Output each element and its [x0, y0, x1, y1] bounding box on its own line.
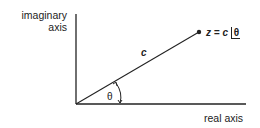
point-z-label-prefix: z = c: [206, 27, 231, 38]
theta-label: θ: [107, 91, 113, 103]
point-z-label: z = c θ: [206, 27, 240, 39]
imaginary-axis-label: imaginary axis: [21, 9, 67, 33]
vector-c-label: c: [141, 47, 147, 59]
angle-symbol: θ: [231, 27, 240, 39]
real-axis-label: real axis: [204, 112, 243, 124]
imaginary-axis-label-line2: axis: [21, 21, 67, 33]
point-z-dot: [197, 30, 201, 34]
imaginary-axis-label-line1: imaginary: [21, 9, 67, 21]
vector-c-line: [76, 32, 199, 104]
